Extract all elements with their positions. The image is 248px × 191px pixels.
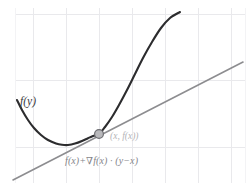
function-curve-label: f(y) [20,96,36,108]
function-curve [17,12,180,145]
tangent-line-label: f(x)+∇f(x) · (y−x) [65,156,138,166]
tangency-point-marker [95,130,104,139]
figure-canvas: f(y) (x, f(x)) f(x)+∇f(x) · (y−x) [0,0,248,191]
tangency-point-label: (x, f(x)) [110,132,138,142]
horizontal-gridlines [15,15,245,148]
